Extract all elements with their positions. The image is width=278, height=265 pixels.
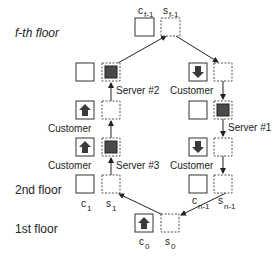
customer-slot-cf1 (135, 18, 154, 36)
floor-label-first: 1st floor (15, 222, 58, 236)
server-1-label: Server #1 (228, 122, 272, 133)
server-2-icon (105, 66, 117, 78)
label-sn1: sn-1 (218, 195, 236, 211)
label-cf1: cf-1 (138, 5, 154, 19)
arrow-to-sf1 (118, 36, 166, 63)
label-c1: c1 (81, 198, 92, 213)
server-3-label: Server #3 (116, 160, 160, 171)
server-3-icon (105, 141, 117, 153)
customer-label-left-3: Customer (48, 160, 92, 171)
server-slot-right-3 (214, 138, 232, 156)
customer-label-right-3: Customer (170, 160, 214, 171)
server-1-icon (217, 104, 229, 116)
label-sf1: sf-1 (163, 5, 179, 19)
label-c0: c0 (139, 236, 150, 251)
floor-label-second: 2nd floor (15, 183, 62, 197)
customer-slot-c1 (76, 175, 94, 193)
label-s0: s0 (165, 236, 176, 251)
customer-slot-cn1 (189, 175, 207, 193)
server-slot-left-2 (102, 101, 120, 119)
customer-slot-right-2 (189, 101, 207, 119)
customer-label-right-1: Customer (170, 85, 214, 96)
server-slot-sn1 (214, 175, 232, 193)
server-slot-sf1 (161, 18, 180, 36)
server-2-label: Server #2 (116, 85, 160, 96)
server-slot-s0 (161, 214, 179, 232)
flow-arrows (111, 36, 226, 215)
label-s1: s1 (106, 198, 117, 213)
server-slot-right-1 (214, 63, 232, 81)
customer-label-left-2: Customer (48, 123, 92, 134)
elevator-ring-diagram: f-th floor 2nd floor 1st floor cf-1 sf-1… (0, 0, 278, 265)
customer-slot-left-1 (76, 63, 94, 81)
arrow-s0-to-s1 (119, 194, 163, 215)
server-slot-s1 (102, 175, 120, 193)
floor-label-top: f-th floor (15, 26, 60, 40)
arrow-from-sf1 (176, 36, 218, 62)
